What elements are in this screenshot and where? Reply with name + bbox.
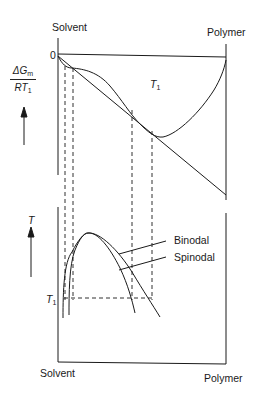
upper-arrow-head xyxy=(21,107,27,117)
lower-polymer-label: Polymer xyxy=(204,373,243,384)
t1-curve-label: T1 xyxy=(150,79,160,91)
rt-text: RT xyxy=(14,82,27,93)
lower-bottom-axis xyxy=(58,362,226,364)
temperature-axis-label: T xyxy=(28,215,34,226)
binodal-label: Binodal xyxy=(174,235,209,246)
upper-solvent-label: Solvent xyxy=(52,22,87,33)
t1-level-sub: 1 xyxy=(52,299,56,306)
delta-g-axis-label: ΔGm RT1 xyxy=(10,66,36,94)
tangent-line xyxy=(58,56,226,195)
lower-arrow-head xyxy=(28,227,34,237)
t1-level-label: T1 xyxy=(46,294,56,306)
binodal-curve xyxy=(63,233,160,318)
upper-zero-line xyxy=(58,54,226,57)
spinodal-label: Spinodal xyxy=(174,252,215,263)
t1-curve-sub: 1 xyxy=(156,84,160,91)
phase-diagram-graphics xyxy=(0,0,262,394)
rt-sub: 1 xyxy=(28,87,32,94)
lower-solvent-label: Solvent xyxy=(40,368,75,379)
delta-g-sub: m xyxy=(27,70,33,77)
binodal-leader xyxy=(119,241,166,254)
spinodal-curve xyxy=(69,233,135,315)
delta-g-text: ΔG xyxy=(13,65,28,76)
zero-label: 0 xyxy=(50,50,56,61)
upper-polymer-label: Polymer xyxy=(207,27,246,38)
